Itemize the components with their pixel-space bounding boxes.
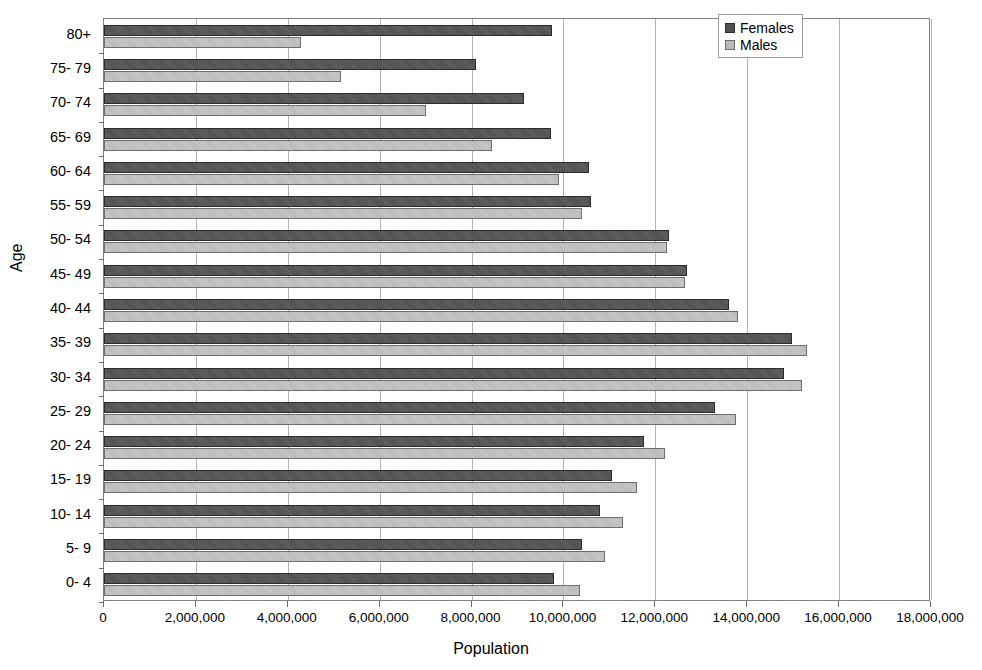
bar-group — [104, 436, 929, 459]
bar-females — [104, 196, 591, 207]
bar-females — [104, 470, 612, 481]
y-axis-label: 10- 14 — [0, 506, 91, 522]
x-axis-tick — [287, 601, 288, 607]
legend-swatch-males-icon — [725, 40, 735, 50]
bar-females — [104, 93, 524, 104]
bar-males — [104, 345, 807, 356]
bar-group — [104, 402, 929, 425]
bar-males — [104, 585, 580, 596]
bar-group — [104, 333, 929, 356]
y-axis-tick — [99, 568, 104, 569]
bar-females — [104, 333, 792, 344]
y-axis-label: 0- 4 — [0, 574, 91, 590]
legend-label-males: Males — [740, 37, 777, 53]
bar-females — [104, 402, 715, 413]
bar-group — [104, 196, 929, 219]
bar-females — [104, 230, 669, 241]
bar-group — [104, 505, 929, 528]
y-axis-label: 75- 79 — [0, 60, 91, 76]
y-axis-label: 30- 34 — [0, 369, 91, 385]
bar-females — [104, 265, 687, 276]
bar-females — [104, 162, 589, 173]
y-axis-label: 40- 44 — [0, 300, 91, 316]
y-axis-label: 50- 54 — [0, 231, 91, 247]
bar-males — [104, 105, 426, 116]
chart-figure: Age Population Females Males 02,000,0004… — [0, 0, 982, 670]
y-axis-tick — [99, 53, 104, 54]
bar-females — [104, 128, 551, 139]
bar-females — [104, 59, 476, 70]
y-axis-tick — [99, 431, 104, 432]
bar-group — [104, 299, 929, 322]
x-axis-tick — [930, 601, 931, 607]
bar-females — [104, 436, 644, 447]
y-axis-label: 45- 49 — [0, 266, 91, 282]
y-axis-tick — [99, 499, 104, 500]
y-axis-label: 25- 29 — [0, 403, 91, 419]
y-axis-tick — [99, 328, 104, 329]
y-axis-tick — [99, 88, 104, 89]
y-axis-tick — [99, 533, 104, 534]
bar-females — [104, 539, 582, 550]
y-axis-tick — [99, 362, 104, 363]
legend-item-males: Males — [725, 36, 794, 53]
bar-males — [104, 482, 637, 493]
bar-males — [104, 311, 738, 322]
y-axis-tick — [99, 396, 104, 397]
bar-females — [104, 25, 552, 36]
y-axis-tick — [99, 465, 104, 466]
chart-legend: Females Males — [718, 14, 803, 58]
bar-males — [104, 37, 301, 48]
bar-males — [104, 174, 559, 185]
bar-group — [104, 573, 929, 596]
bar-group — [104, 25, 929, 48]
y-axis-label: 55- 59 — [0, 197, 91, 213]
bar-females — [104, 573, 554, 584]
bar-group — [104, 93, 929, 116]
x-axis-tick — [838, 601, 839, 607]
x-axis-tick — [195, 601, 196, 607]
y-axis-label: 5- 9 — [0, 540, 91, 556]
bar-group — [104, 230, 929, 253]
bar-females — [104, 368, 784, 379]
bar-group — [104, 128, 929, 151]
bar-group — [104, 539, 929, 562]
y-axis-tick — [99, 190, 104, 191]
y-axis-label: 20- 24 — [0, 437, 91, 453]
bar-group — [104, 368, 929, 391]
x-axis-tick — [379, 601, 380, 607]
bar-males — [104, 208, 582, 219]
bar-males — [104, 380, 802, 391]
y-axis-tick — [99, 225, 104, 226]
bar-females — [104, 505, 600, 516]
y-axis-tick — [99, 259, 104, 260]
y-axis-tick — [99, 156, 104, 157]
bar-group — [104, 470, 929, 493]
x-axis-tick — [654, 601, 655, 607]
plot-area — [103, 18, 930, 601]
bar-males — [104, 242, 667, 253]
legend-item-females: Females — [725, 19, 794, 36]
bar-group — [104, 59, 929, 82]
x-axis-tick — [562, 601, 563, 607]
bar-females — [104, 299, 729, 310]
x-axis-title: Population — [0, 640, 982, 658]
bar-group — [104, 162, 929, 185]
y-axis-label: 60- 64 — [0, 163, 91, 179]
x-axis-tick — [103, 601, 104, 607]
bar-males — [104, 448, 665, 459]
x-axis-label: 18,000,000 — [870, 610, 982, 625]
legend-label-females: Females — [740, 20, 794, 36]
y-axis-tick — [99, 293, 104, 294]
bar-group — [104, 265, 929, 288]
y-axis-label: 70- 74 — [0, 94, 91, 110]
x-axis-tick — [746, 601, 747, 607]
y-axis-label: 15- 19 — [0, 471, 91, 487]
bar-males — [104, 551, 605, 562]
legend-swatch-females-icon — [725, 23, 735, 33]
gridline — [931, 19, 932, 600]
bar-males — [104, 517, 623, 528]
y-axis-label: 65- 69 — [0, 129, 91, 145]
y-axis-label: 80+ — [0, 26, 91, 42]
bar-males — [104, 140, 492, 151]
